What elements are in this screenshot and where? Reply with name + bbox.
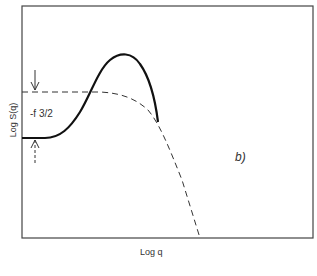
x-axis-label: Log q: [140, 247, 163, 257]
annotation-label: -f 3/2: [30, 108, 53, 119]
solid-curve: [22, 54, 158, 138]
y-axis-label: Log S(q): [8, 95, 18, 145]
arrow-down-icon: [31, 70, 39, 90]
plot-area: [0, 0, 317, 276]
plot-frame: [22, 6, 313, 238]
arrow-up-icon: [31, 140, 39, 165]
panel-label: b): [235, 150, 246, 164]
